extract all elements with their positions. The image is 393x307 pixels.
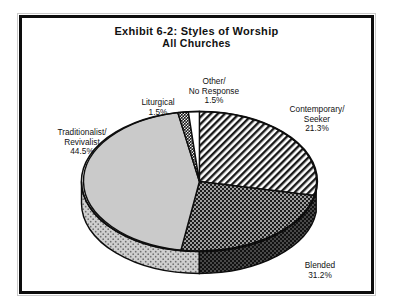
slice-label-other: Other/ No Response 1.5% bbox=[180, 77, 248, 106]
slice-label-traditionalist-value: 44.5% bbox=[36, 147, 128, 157]
figure-inner-border: Exhibit 6-2: Styles of Worship All Churc… bbox=[19, 15, 374, 294]
slice-label-blended-value: 31.2% bbox=[284, 271, 356, 281]
slice-label-contemporary: Contemporary/ Seeker 21.3% bbox=[268, 105, 366, 134]
figure-frame: Exhibit 6-2: Styles of Worship All Churc… bbox=[17, 13, 376, 296]
pie-chart: Traditionalist/ Revivalist 44.5% Liturgi… bbox=[22, 18, 371, 291]
slice-label-traditionalist: Traditionalist/ Revivalist 44.5% bbox=[36, 128, 128, 157]
slice-label-liturgical: Liturgical 1.5% bbox=[130, 98, 186, 117]
slice-label-contemporary-value: 21.3% bbox=[268, 124, 366, 134]
slice-label-blended: Blended 31.2% bbox=[284, 261, 356, 280]
pie-chart-svg bbox=[22, 18, 377, 297]
slice-label-liturgical-value: 1.5% bbox=[130, 108, 186, 118]
slice-label-other-value: 1.5% bbox=[180, 96, 248, 106]
